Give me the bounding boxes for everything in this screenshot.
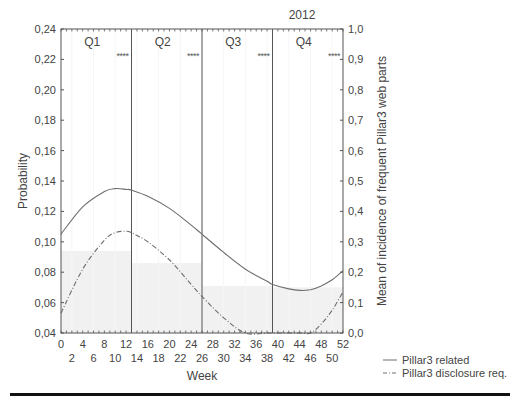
x-tick-label: 42 bbox=[283, 352, 295, 364]
x-tick-label: 30 bbox=[218, 352, 230, 364]
x-tick-label: 48 bbox=[315, 338, 327, 350]
y-axis-left-ticks: 0,040,060,080,100,120,140,160,180,200,22… bbox=[35, 23, 64, 339]
y-tick-label: 0,20 bbox=[35, 84, 56, 96]
chart-canvas: 0481216202428323640444852261014182226303… bbox=[0, 0, 519, 398]
y2-tick-label: 0,4 bbox=[348, 205, 363, 217]
quarter-label-q1: Q1 bbox=[84, 35, 100, 49]
y2-tick-label: 0,1 bbox=[348, 297, 363, 309]
x-tick-label: 22 bbox=[174, 352, 186, 364]
y-tick-label: 0,24 bbox=[35, 23, 56, 35]
legend-item-pillar3-disclosure: Pillar3 disclosure req. bbox=[383, 367, 507, 379]
x-tick-label: 10 bbox=[109, 352, 121, 364]
x-tick-label: 34 bbox=[239, 352, 251, 364]
quarter-label-q2: Q2 bbox=[155, 35, 171, 49]
legend-label: Pillar3 disclosure req. bbox=[402, 367, 507, 379]
x-tick-label: 44 bbox=[293, 338, 305, 350]
y2-tick-label: 0,2 bbox=[348, 266, 363, 278]
quarter-label-q4: Q4 bbox=[296, 35, 312, 49]
x-tick-label: 36 bbox=[250, 338, 262, 350]
x-tick-label: 46 bbox=[304, 352, 316, 364]
y-tick-label: 0,04 bbox=[35, 327, 56, 339]
y2-tick-label: 0,8 bbox=[348, 84, 363, 96]
x-tick-label: 28 bbox=[207, 338, 219, 350]
legend-label: Pillar3 related bbox=[402, 354, 469, 366]
incidence-bar-q2 bbox=[132, 263, 203, 333]
y2-tick-label: 1,0 bbox=[348, 23, 363, 35]
x-tick-label: 0 bbox=[58, 338, 64, 350]
y-axis-left-title: Probability bbox=[16, 153, 30, 209]
y2-tick-label: 0,9 bbox=[348, 53, 363, 65]
significance-stars: **** bbox=[328, 51, 341, 61]
y-tick-label: 0,22 bbox=[35, 53, 56, 65]
incidence-bar-q3 bbox=[202, 286, 273, 333]
x-tick-label: 2 bbox=[69, 352, 75, 364]
y-tick-label: 0,18 bbox=[35, 114, 56, 126]
y2-tick-label: 0,0 bbox=[348, 327, 363, 339]
significance-stars: **** bbox=[257, 51, 270, 61]
y-tick-label: 0,06 bbox=[35, 297, 56, 309]
x-tick-label: 52 bbox=[337, 338, 349, 350]
y-tick-label: 0,14 bbox=[35, 175, 56, 187]
x-tick-label: 40 bbox=[272, 338, 284, 350]
x-tick-label: 16 bbox=[142, 338, 154, 350]
x-tick-label: 38 bbox=[261, 352, 273, 364]
y2-tick-label: 0,7 bbox=[348, 114, 363, 126]
x-tick-label: 12 bbox=[120, 338, 132, 350]
y2-tick-label: 0,5 bbox=[348, 175, 363, 187]
x-tick-label: 26 bbox=[196, 352, 208, 364]
y-tick-label: 0,08 bbox=[35, 266, 56, 278]
quarter-label-q3: Q3 bbox=[225, 35, 241, 49]
bottom-divider-rule bbox=[10, 393, 510, 396]
quarter-labels: Q1****Q2****Q3****Q4**** bbox=[84, 35, 341, 61]
y-axis-right-title: Mean of incidence of frequent Pillar3 we… bbox=[375, 56, 389, 306]
x-tick-label: 14 bbox=[131, 352, 143, 364]
legend-item-pillar3-related: Pillar3 related bbox=[383, 354, 469, 366]
x-tick-label: 24 bbox=[185, 338, 197, 350]
y2-tick-label: 0,3 bbox=[348, 236, 363, 248]
x-tick-label: 20 bbox=[163, 338, 175, 350]
y2-tick-label: 0,6 bbox=[348, 145, 363, 157]
y-tick-label: 0,10 bbox=[35, 236, 56, 248]
legend: Pillar3 related Pillar3 disclosure req. bbox=[383, 354, 507, 379]
x-axis-title: Week bbox=[187, 369, 218, 383]
x-tick-label: 32 bbox=[228, 338, 240, 350]
x-tick-label: 4 bbox=[80, 338, 86, 350]
significance-stars: **** bbox=[187, 51, 200, 61]
x-tick-label: 8 bbox=[101, 338, 107, 350]
x-tick-label: 50 bbox=[326, 352, 338, 364]
chart-title: 2012 bbox=[289, 8, 316, 22]
x-tick-label: 18 bbox=[152, 352, 164, 364]
y-tick-label: 0,16 bbox=[35, 145, 56, 157]
y-tick-label: 0,12 bbox=[35, 205, 56, 217]
x-tick-label: 6 bbox=[90, 352, 96, 364]
significance-stars: **** bbox=[116, 51, 129, 61]
